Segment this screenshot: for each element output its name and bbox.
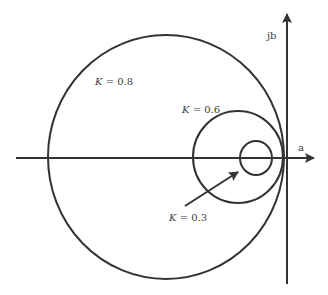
pointer-arrow xyxy=(185,172,238,206)
label-k-0.6: K = 0.6 xyxy=(181,104,220,115)
label-k-0.3: K = 0.3 xyxy=(168,212,207,223)
k-circle-diagram: a jb K = 0.8 K = 0.6 K = 0.3 xyxy=(0,0,328,295)
label-k-0.8: K = 0.8 xyxy=(94,76,133,87)
horizontal-axis-label: a xyxy=(298,142,304,153)
vertical-axis-label: jb xyxy=(266,30,277,41)
